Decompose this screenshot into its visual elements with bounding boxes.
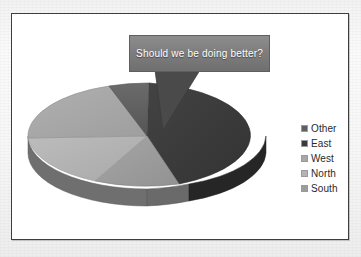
legend-item-label: North: [311, 168, 336, 179]
pie-top-surface: [28, 83, 250, 186]
legend-item-label: South: [311, 183, 338, 194]
legend-swatch-icon: [301, 185, 308, 192]
legend-item-label: East: [311, 138, 331, 149]
screenshot-root: Should we be doing better? Other East We…: [0, 0, 361, 257]
legend-item-north[interactable]: North: [301, 167, 361, 180]
legend-swatch-icon: [301, 170, 308, 177]
legend-item-west[interactable]: West: [301, 152, 361, 165]
legend-swatch-icon: [301, 125, 308, 132]
pie-chart-plot-area: Should we be doing better? Other East We…: [12, 14, 350, 241]
legend-item-label: Other: [311, 123, 337, 134]
legend-item-label: West: [311, 153, 334, 164]
callout-annotation[interactable]: Should we be doing better?: [129, 35, 270, 72]
legend-item-other[interactable]: Other: [301, 122, 361, 135]
legend-swatch-icon: [301, 155, 308, 162]
chart-legend: Other East West North South: [301, 122, 361, 195]
legend-item-east[interactable]: East: [301, 137, 361, 150]
legend-swatch-icon: [301, 140, 308, 147]
callout-text: Should we be doing better?: [129, 35, 270, 72]
legend-item-south[interactable]: South: [301, 182, 361, 195]
chart-frame: Should we be doing better? Other East We…: [11, 13, 349, 240]
callout-tail-pointer: [149, 70, 209, 130]
